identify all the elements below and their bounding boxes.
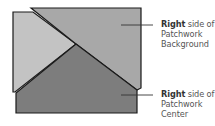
label-line-3: Background — [161, 39, 214, 49]
label-right-side-background: Right side of Patchwork Background — [161, 19, 214, 50]
label-bold: Right — [161, 19, 185, 29]
label-bold: Right — [161, 89, 185, 99]
label-text: side of — [185, 89, 214, 99]
label-text: side of — [185, 19, 214, 29]
label-right-side-center: Right side of Patchwork Center — [161, 89, 214, 120]
label-line-3: Center — [161, 109, 214, 119]
label-line-2: Patchwork — [161, 99, 214, 109]
label-line-2: Patchwork — [161, 29, 214, 39]
patchwork-diagram: Right side of Patchwork Background Right… — [0, 0, 215, 126]
